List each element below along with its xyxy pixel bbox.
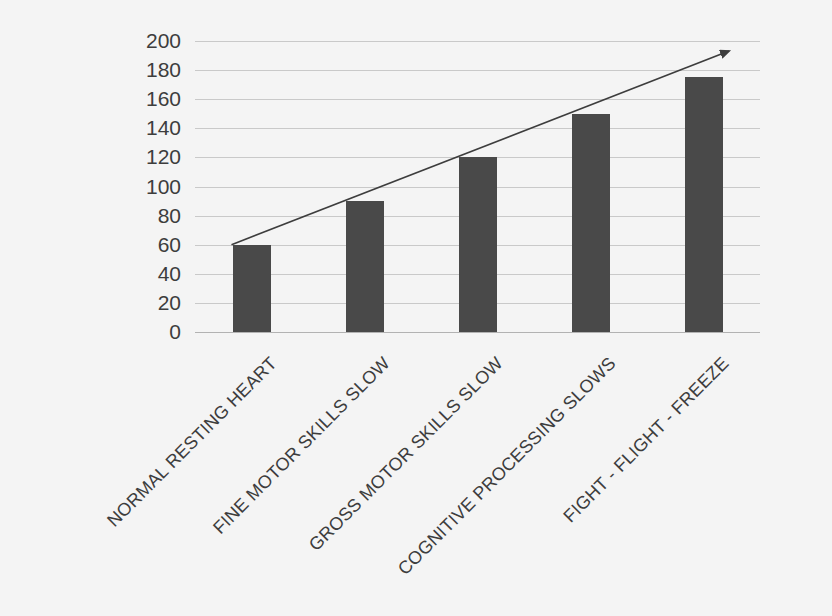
x-axis-labels: NORMAL RESTING HEARTFINE MOTOR SKILLS SL… [0, 0, 832, 616]
bar-chart: 200180160140120100806040200 NORMAL RESTI… [0, 0, 832, 616]
x-axis-category-label: NORMAL RESTING HEART [0, 353, 281, 616]
